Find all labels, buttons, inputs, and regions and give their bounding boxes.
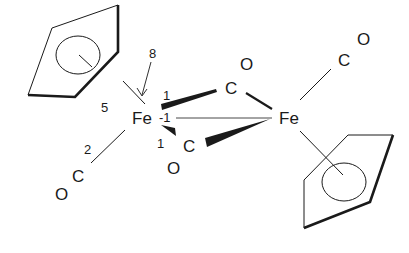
- annotation-8: 8: [149, 46, 156, 61]
- bond-fe-cp-right: [300, 131, 343, 175]
- bond-fe-co-right: [300, 69, 331, 100]
- atom-c-bridge-top: C: [225, 79, 237, 98]
- atom-o-terminal-left: O: [55, 185, 68, 204]
- annotation-minus-1: -1: [159, 110, 171, 125]
- annotation-2: 2: [84, 142, 91, 157]
- atom-c-terminal-right: C: [338, 51, 350, 70]
- atom-fe-left: Fe: [132, 109, 152, 128]
- annotation-1-bottom: 1: [157, 136, 164, 151]
- bond-c-fe-top: [246, 93, 272, 109]
- bond-fe-co-left: [91, 130, 125, 163]
- atom-o-bridge-bottom: O: [167, 159, 180, 178]
- atom-fe-right: Fe: [279, 109, 299, 128]
- atom-o-bridge-top: O: [240, 55, 253, 74]
- wedge-c-fe-bottom: [205, 119, 270, 147]
- bond-cp-fe-left: [123, 81, 145, 104]
- annotation-5: 5: [101, 100, 108, 115]
- atom-c-terminal-left: C: [72, 167, 84, 186]
- atom-c-bridge-bottom: C: [183, 137, 195, 156]
- molecule-diagram: Fe Fe C O C O C O C O 8 5 1 -1 1 2: [0, 0, 409, 253]
- atom-o-terminal-right: O: [357, 30, 370, 49]
- annotation-1-top: 1: [163, 88, 170, 103]
- cp-ring-left: [28, 5, 118, 97]
- wedge-fe-c-bottom: [161, 125, 176, 136]
